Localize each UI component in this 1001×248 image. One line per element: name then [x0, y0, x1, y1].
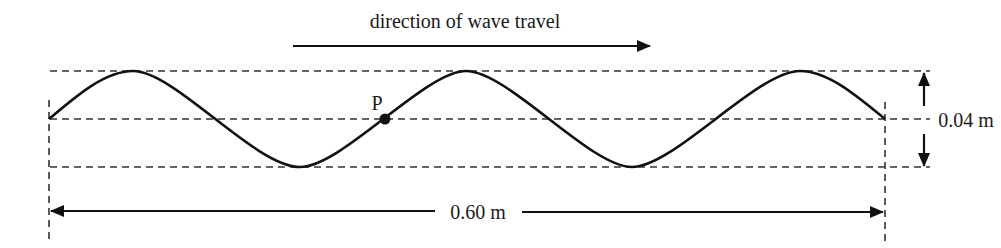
point-p-marker — [380, 114, 391, 125]
amplitude-dimension: 0.04 m — [924, 73, 994, 166]
travel-direction: direction of wave travel — [293, 10, 650, 46]
wave-diagram: direction of wave travel P 0.04 m 0.60 m — [0, 0, 1001, 248]
length-label: 0.60 m — [450, 201, 506, 223]
amplitude-label: 0.04 m — [938, 109, 994, 131]
point-p-label: P — [371, 92, 382, 114]
travel-direction-label: direction of wave travel — [370, 10, 561, 32]
length-dimension: 0.60 m — [51, 201, 883, 223]
